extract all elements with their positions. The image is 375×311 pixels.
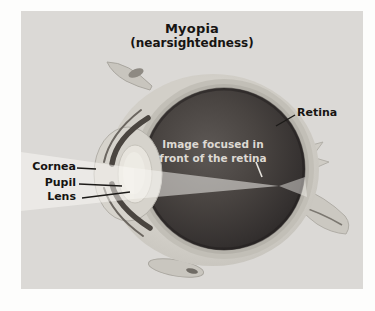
title-block: Myopia (nearsightedness): [21, 22, 363, 50]
figure-title: Myopia: [21, 22, 363, 36]
label-pupil: Pupil: [0, 177, 76, 189]
figure: Myopia (nearsightedness) Retina Cornea P…: [0, 0, 375, 311]
label-lens: Lens: [0, 191, 76, 203]
annotation-line1: Image focused in: [152, 137, 274, 151]
figure-subtitle: (nearsightedness): [21, 36, 363, 50]
cornea-leader-line: [77, 168, 96, 169]
annotation-focus: Image focused in front of the retina: [152, 137, 274, 165]
eye-muscle-top: [107, 62, 152, 90]
label-cornea: Cornea: [0, 161, 76, 173]
annotation-line2: front of the retina: [152, 151, 274, 165]
label-retina: Retina: [297, 107, 337, 119]
